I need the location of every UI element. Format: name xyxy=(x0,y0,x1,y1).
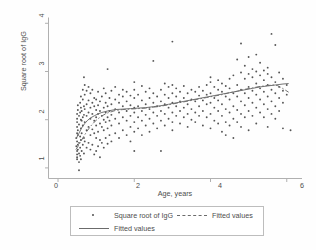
legend-marker-dashed-line-icon xyxy=(175,210,209,221)
legend-label-scatter: Square root of IgG xyxy=(114,211,173,220)
axis-lines xyxy=(49,18,303,179)
axis-ticks xyxy=(45,23,287,182)
legend-marker-solid-line-icon xyxy=(77,223,111,234)
chart-legend: Square root of IgG Fitted values Fitted … xyxy=(70,206,264,236)
legend-label-dashed: Fitted values xyxy=(212,211,253,220)
legend-entry-scatter: Square root of IgG xyxy=(77,209,173,222)
legend-entry-solid: Fitted values xyxy=(77,222,155,235)
legend-label-solid: Fitted values xyxy=(114,224,155,233)
chart-figure: Square root of IgG 4 3 2 1 0 2 4 6 Age, … xyxy=(0,0,316,250)
legend-entry-dashed: Fitted values xyxy=(175,209,253,222)
legend-marker-dot-icon xyxy=(77,210,111,221)
